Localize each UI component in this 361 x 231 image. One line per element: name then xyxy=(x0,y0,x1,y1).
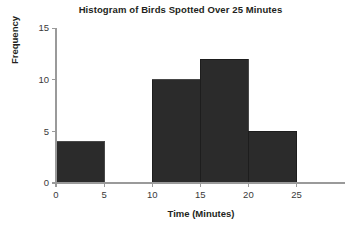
x-tick-label: 25 xyxy=(291,189,302,200)
x-tick-label: 0 xyxy=(53,189,58,200)
x-tick-label: 5 xyxy=(101,189,106,200)
bars-group xyxy=(56,59,297,183)
y-axis-ticks: 051015 xyxy=(38,22,56,188)
histogram-bar xyxy=(200,59,248,183)
x-tick-label: 10 xyxy=(147,189,158,200)
x-axis-ticks: 0510152025 xyxy=(53,183,301,200)
x-tick-label: 15 xyxy=(195,189,206,200)
x-tick-label: 20 xyxy=(243,189,254,200)
histogram-figure: Histogram of Birds Spotted Over 25 Minut… xyxy=(0,0,361,231)
y-tick-label: 5 xyxy=(44,126,49,137)
histogram-bar xyxy=(152,80,200,183)
histogram-bar xyxy=(56,142,104,183)
histogram-bar xyxy=(248,131,296,183)
plot-area: 051015 0510152025 xyxy=(0,0,361,231)
y-tick-label: 15 xyxy=(38,22,49,33)
y-tick-label: 0 xyxy=(44,177,49,188)
y-tick-label: 10 xyxy=(38,74,49,85)
